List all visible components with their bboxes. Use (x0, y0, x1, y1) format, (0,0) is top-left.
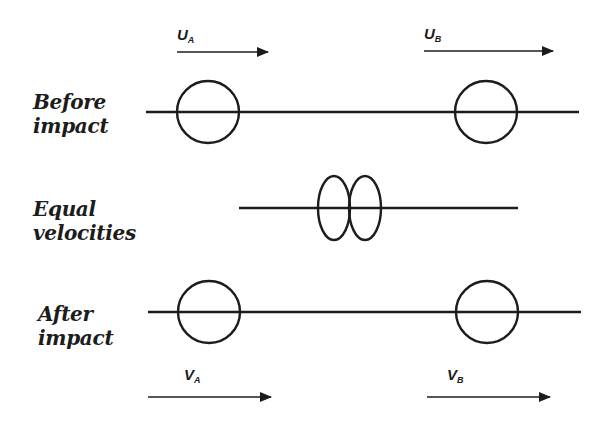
stage-label-line1: Equal (33, 197, 136, 221)
label-va: VA (184, 366, 201, 385)
equal-velocities-row (239, 176, 518, 240)
symbol-u: U (424, 25, 435, 42)
after-impact-row (148, 281, 581, 343)
subscript-b: B (457, 375, 464, 385)
subscript-a: A (188, 35, 195, 45)
stage-label-line2: impact (33, 114, 108, 138)
stage-label-equal: Equal velocities (33, 197, 136, 245)
symbol-v: V (184, 366, 194, 383)
label-ub: UB (424, 25, 441, 44)
stage-label-line2: velocities (33, 221, 136, 245)
stage-label-after: After impact (38, 302, 113, 350)
before-impact-row (146, 81, 579, 143)
subscript-b: B (435, 34, 442, 44)
symbol-u: U (177, 26, 188, 43)
symbol-v: V (447, 366, 457, 383)
stage-label-line1: After (38, 302, 113, 326)
label-ua: UA (177, 26, 194, 45)
stage-label-before: Before impact (33, 90, 108, 138)
subscript-a: A (194, 375, 201, 385)
label-vb: VB (447, 366, 464, 385)
stage-label-line1: Before (33, 90, 108, 114)
stage-label-line2: impact (38, 326, 113, 350)
collision-diagram: UA UB VA VB Before impact Equal velociti… (0, 0, 605, 435)
